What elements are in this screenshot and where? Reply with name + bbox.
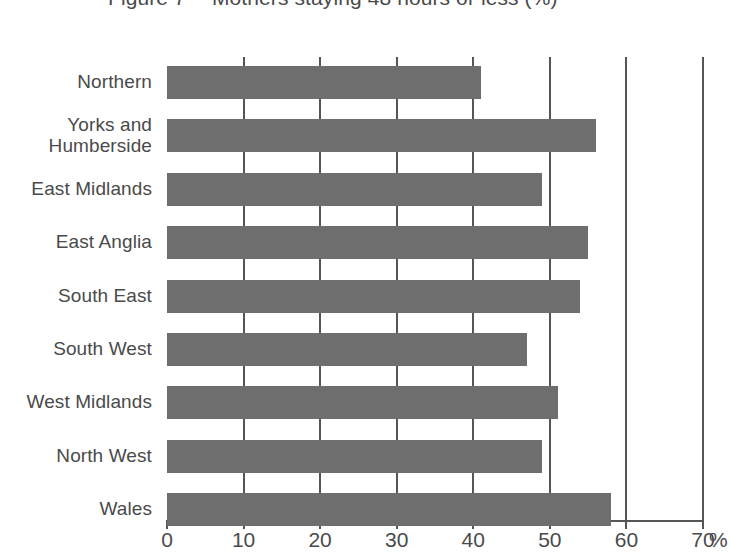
category-label-5: South West — [0, 338, 152, 359]
figure-number-label: Figure 7 — [108, 0, 186, 10]
figure-title-row: Figure 7 Mothers staying 48 hours or les… — [0, 0, 730, 16]
category-label-4: South East — [0, 285, 152, 306]
x-tick-label-20: 20 — [290, 528, 350, 552]
bar-yorks-and-humberside — [167, 119, 596, 152]
x-axis-unit-label: % — [709, 528, 728, 552]
x-tick-label-50: 50 — [520, 528, 580, 552]
bar-wales — [167, 493, 611, 526]
bar-south-east — [167, 280, 580, 313]
bar-east-midlands — [167, 173, 542, 206]
category-label-line1: Yorks and — [0, 114, 152, 135]
category-label-line1: South East — [0, 285, 152, 306]
x-tick-label-0: 0 — [137, 528, 197, 552]
category-label-line1: Wales — [0, 498, 152, 519]
gridline-60 — [625, 57, 627, 520]
category-label-8: Wales — [0, 498, 152, 519]
bar-west-midlands — [167, 386, 558, 419]
x-tick-label-60: 60 — [596, 528, 656, 552]
category-label-line1: Northern — [0, 71, 152, 92]
category-label-2: East Midlands — [0, 178, 152, 199]
page-title: Mothers staying 48 hours or less (%) — [212, 0, 558, 10]
x-tick-label-40: 40 — [443, 528, 503, 552]
category-label-line1: South West — [0, 338, 152, 359]
gridline-70 — [702, 57, 704, 520]
bar-north-west — [167, 440, 542, 473]
category-label-3: East Anglia — [0, 231, 152, 252]
category-label-7: North West — [0, 445, 152, 466]
category-label-line2: Humberside — [0, 135, 152, 156]
category-label-line1: East Anglia — [0, 231, 152, 252]
bar-south-west — [167, 333, 527, 366]
x-tick-label-10: 10 — [214, 528, 274, 552]
x-tick-label-30: 30 — [367, 528, 427, 552]
category-label-line1: East Midlands — [0, 178, 152, 199]
category-label-0: Northern — [0, 71, 152, 92]
bar-northern — [167, 66, 481, 99]
category-label-line1: North West — [0, 445, 152, 466]
figure-bar-chart: Figure 7 Mothers staying 48 hours or les… — [0, 0, 730, 556]
category-label-6: West Midlands — [0, 391, 152, 412]
bar-east-anglia — [167, 226, 588, 259]
category-label-line1: West Midlands — [0, 391, 152, 412]
category-label-1: Yorks andHumberside — [0, 114, 152, 156]
